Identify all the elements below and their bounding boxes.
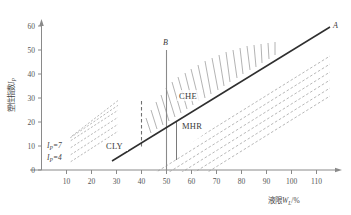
b-line-label: B xyxy=(163,38,168,47)
region-labels: CLY CHE MHR xyxy=(104,90,208,151)
y-axis-title-group: 塑性指数IP xyxy=(6,77,17,112)
x-tick-label-60: 60 xyxy=(188,177,196,186)
x-tick-label-30: 30 xyxy=(113,177,121,186)
plasticity-chart: 0 10 20 30 40 50 60 10 20 30 40 50 xyxy=(0,0,351,215)
x-ticks: 10 20 30 40 50 60 70 80 90 100 110 xyxy=(63,170,322,186)
x-tick-label-10: 10 xyxy=(63,177,71,186)
y-tick-label-50: 50 xyxy=(28,46,36,55)
y-tick-label-20: 20 xyxy=(28,118,36,127)
ip-notes: IP=7 IP=4 xyxy=(46,141,62,163)
note-ip7: IP=7 xyxy=(46,141,62,151)
y-axis-title: 塑性指数IP xyxy=(6,77,17,112)
x-tick-label-110: 110 xyxy=(311,177,322,186)
y-tick-label-30: 30 xyxy=(28,94,36,103)
x-tick-label-80: 80 xyxy=(238,177,246,186)
x-tick-label-20: 20 xyxy=(88,177,96,186)
chart-svg: 0 10 20 30 40 50 60 10 20 30 40 50 xyxy=(0,0,351,215)
region-label-cly: CLY xyxy=(106,141,123,151)
y-tick-label-60: 60 xyxy=(28,22,36,31)
y-tick-label-40: 40 xyxy=(28,70,36,79)
x-tick-label-90: 90 xyxy=(263,177,271,186)
a-line xyxy=(112,27,330,161)
x-axis-arrow xyxy=(335,168,342,173)
y-tick-label-10: 10 xyxy=(28,142,36,151)
region-label-mhr: MHR xyxy=(182,121,202,131)
x-axis-title-group: 液限WL/% xyxy=(268,195,300,206)
x-tick-label-40: 40 xyxy=(138,177,146,186)
cly-hatch-group xyxy=(64,99,120,166)
y-tick-label-0: 0 xyxy=(31,166,35,175)
x-tick-label-100: 100 xyxy=(286,177,298,186)
note-ip4: IP=4 xyxy=(46,153,62,163)
che-hatch-group xyxy=(146,42,275,133)
a-line-label: A xyxy=(332,21,338,30)
x-tick-label-70: 70 xyxy=(213,177,221,186)
x-axis-title: 液限WL/% xyxy=(268,195,300,206)
region-label-che: CHE xyxy=(179,91,197,101)
x-tick-label-50: 50 xyxy=(163,177,171,186)
y-axis-arrow xyxy=(39,19,44,26)
y-ticks: 0 10 20 30 40 50 60 xyxy=(28,22,42,175)
